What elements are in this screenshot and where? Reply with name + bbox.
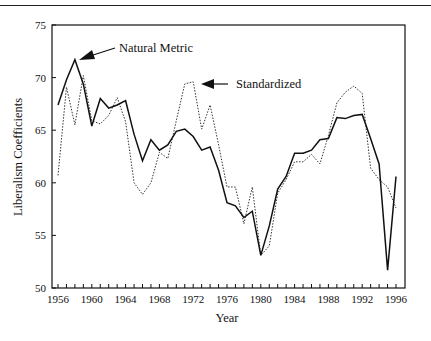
x-tick-label: 1996 — [385, 293, 408, 305]
axes — [52, 25, 405, 288]
x-tick-label: 1972 — [182, 293, 204, 305]
annotation-standardized: Standardized — [201, 77, 302, 91]
arrow-head-icon — [79, 50, 95, 60]
y-axis-title: Liberalism Coefficients — [11, 98, 25, 216]
line-chart: 1956196019641968197219761980198419881992… — [0, 0, 431, 341]
x-tick-label: 1984 — [284, 293, 307, 305]
x-axis-title: Year — [215, 311, 239, 325]
arrow-head-icon — [201, 79, 214, 89]
plot-frame — [52, 25, 405, 288]
y-tick-label: 75 — [35, 19, 47, 31]
tick-marks — [52, 25, 396, 288]
series-standardized-line — [58, 76, 396, 256]
x-tick-label: 1964 — [115, 293, 138, 305]
x-tick-label: 1988 — [317, 293, 340, 305]
x-tick-label: 1992 — [351, 293, 373, 305]
series-natural-metric-line — [58, 60, 396, 270]
y-tick-label: 50 — [35, 282, 47, 294]
x-tick-label: 1960 — [81, 293, 104, 305]
y-tick-label: 60 — [35, 177, 47, 189]
arrow-line — [90, 48, 115, 56]
y-tick-label: 65 — [35, 124, 47, 136]
x-tick-label: 1968 — [148, 293, 171, 305]
x-tick-label: 1976 — [216, 293, 239, 305]
annotation-label: Natural Metric — [119, 41, 193, 55]
annotation-label: Standardized — [236, 77, 302, 91]
annotation-natural-metric: Natural Metric — [79, 41, 193, 60]
x-tick-label: 1980 — [250, 293, 273, 305]
y-tick-label: 70 — [35, 72, 47, 84]
y-tick-labels: 505560657075 — [35, 19, 47, 294]
y-tick-label: 55 — [35, 229, 47, 241]
x-tick-labels: 1956196019641968197219761980198419881992… — [47, 293, 408, 305]
x-tick-label: 1956 — [47, 293, 70, 305]
